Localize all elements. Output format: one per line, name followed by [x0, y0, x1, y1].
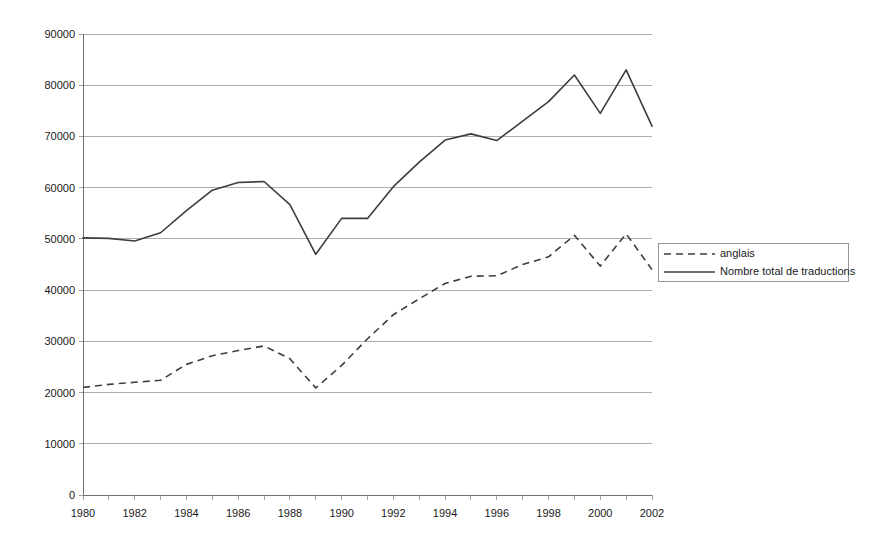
series-line-nombre-total-de-traductions: [83, 70, 652, 254]
y-axis-tick-label: 80000: [44, 79, 75, 91]
y-axis-tick-label: 70000: [44, 130, 75, 142]
y-axis-group: [79, 34, 83, 495]
gridlines-group: [83, 34, 652, 444]
y-axis-tick-label: 20000: [44, 387, 75, 399]
y-axis-tick-label: 0: [69, 489, 75, 501]
y-axis-tick-label: 60000: [44, 182, 75, 194]
x-axis-tick-label: 1994: [433, 507, 457, 519]
x-axis-tick-label: 1984: [174, 507, 198, 519]
x-axis-tick-label: 1992: [381, 507, 405, 519]
x-tick-labels-group: 1980198219841986198819901992199419961998…: [71, 507, 664, 519]
y-axis-tick-label: 10000: [44, 438, 75, 450]
legend-label: anglais: [720, 247, 755, 259]
x-axis-tick-label: 2002: [640, 507, 664, 519]
series-line-anglais: [83, 234, 652, 388]
x-axis-tick-label: 1998: [536, 507, 560, 519]
x-axis-tick-label: 1986: [226, 507, 250, 519]
y-axis-tick-label: 30000: [44, 335, 75, 347]
x-axis-group: [83, 495, 652, 500]
x-axis-tick-label: 1996: [485, 507, 509, 519]
y-tick-labels-group: 0100002000030000400005000060000700008000…: [44, 28, 75, 501]
x-axis-tick-label: 1990: [329, 507, 353, 519]
y-axis-tick-label: 40000: [44, 284, 75, 296]
chart-container: 0100002000030000400005000060000700008000…: [0, 0, 877, 555]
x-axis-tick-label: 2000: [588, 507, 612, 519]
legend-label: Nombre total de traductions: [720, 265, 856, 277]
chart-legend: anglaisNombre total de traductions: [658, 243, 856, 281]
line-chart: 0100002000030000400005000060000700008000…: [0, 0, 877, 555]
x-axis-tick-label: 1988: [278, 507, 302, 519]
x-axis-tick-label: 1982: [122, 507, 146, 519]
series-group: [83, 70, 652, 388]
y-axis-tick-label: 90000: [44, 28, 75, 40]
y-axis-tick-label: 50000: [44, 233, 75, 245]
x-axis-tick-label: 1980: [71, 507, 95, 519]
